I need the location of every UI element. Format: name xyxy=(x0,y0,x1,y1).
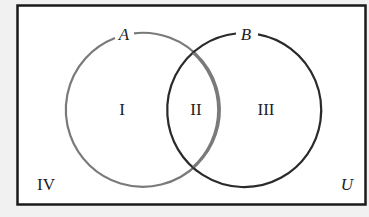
region-ii-label: II xyxy=(190,100,202,119)
region-i-label: I xyxy=(119,100,125,119)
venn-diagram: A B I II III IV U xyxy=(0,0,369,217)
set-a-label: A xyxy=(118,25,130,44)
region-iv-label: IV xyxy=(37,175,56,194)
region-iii-label: III xyxy=(258,100,275,119)
set-b-label: B xyxy=(241,25,252,44)
universe-label: U xyxy=(341,175,355,194)
